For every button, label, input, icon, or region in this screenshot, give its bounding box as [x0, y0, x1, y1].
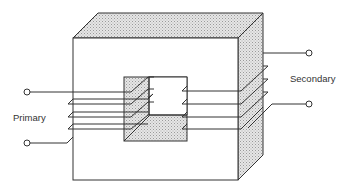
core-window-opening [149, 77, 187, 115]
primary-terminal-bottom [24, 140, 30, 146]
core-right-face [238, 13, 263, 180]
secondary-terminal-bottom [306, 101, 312, 107]
transformer-diagram [0, 0, 347, 189]
core-top-face [73, 13, 263, 38]
secondary-terminal-top [306, 50, 312, 56]
primary-terminal-top [24, 89, 30, 95]
transformer-core [73, 13, 263, 180]
primary-label: Primary [13, 112, 46, 123]
secondary-label: Secondary [290, 73, 335, 84]
